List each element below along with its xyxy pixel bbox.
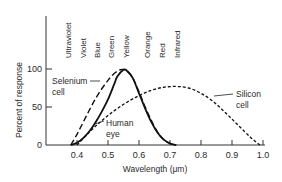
x-tick-label: 0.9: [226, 150, 239, 160]
annotation-label: cell: [52, 87, 65, 97]
color-band-label: Red: [158, 43, 167, 58]
y-tick-label: 100: [27, 64, 42, 74]
color-band-label: Yellow: [122, 35, 131, 58]
annotation-label: eye: [106, 129, 120, 139]
annotation-label: Human: [106, 118, 134, 128]
series-line-silicon-cell: [77, 86, 260, 145]
annotation-leader: [214, 94, 233, 96]
x-tick-label: 0.6: [133, 150, 146, 160]
y-tick-label: 0: [37, 140, 42, 150]
annotation-label: cell: [236, 100, 249, 110]
color-band-label: Orange: [143, 31, 152, 58]
y-ticks: 050100: [27, 64, 52, 150]
color-band-label: Green: [107, 36, 116, 58]
y-axis-title: Percent of response: [14, 62, 24, 138]
color-band-label: Infrared: [173, 30, 182, 58]
x-tick-label: 0.4: [71, 150, 84, 160]
color-band-label: Blue: [93, 41, 102, 58]
y-tick-label: 50: [32, 102, 42, 112]
color-band-label: Ultraviolet: [64, 22, 73, 58]
x-tick-label: 1.0: [257, 150, 270, 160]
series-lines: [71, 69, 260, 145]
color-band-label: Violet: [79, 37, 88, 58]
spectral-response-chart: 0.40.50.60.70.80.91.0 050100 Ultraviolet…: [0, 0, 282, 182]
x-axis-title: Wavelength (μm): [123, 164, 188, 174]
annotation-label: Silicon: [236, 89, 261, 99]
x-tick-label: 0.8: [195, 150, 208, 160]
x-tick-label: 0.5: [102, 150, 115, 160]
x-tick-label: 0.7: [164, 150, 177, 160]
color-band-labels: UltravioletVioletBlueGreenYellowOrangeRe…: [64, 22, 182, 58]
annotation-label: Selenium: [52, 76, 87, 86]
